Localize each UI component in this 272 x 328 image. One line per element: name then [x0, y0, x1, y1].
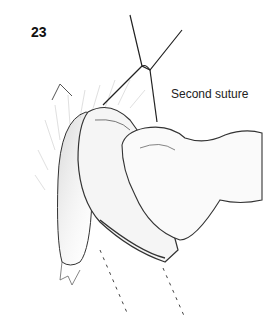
- suture-lines: [103, 15, 182, 122]
- surgical-illustration: [0, 0, 272, 328]
- ear-mark: [52, 84, 72, 100]
- dashed-lines: [100, 250, 185, 318]
